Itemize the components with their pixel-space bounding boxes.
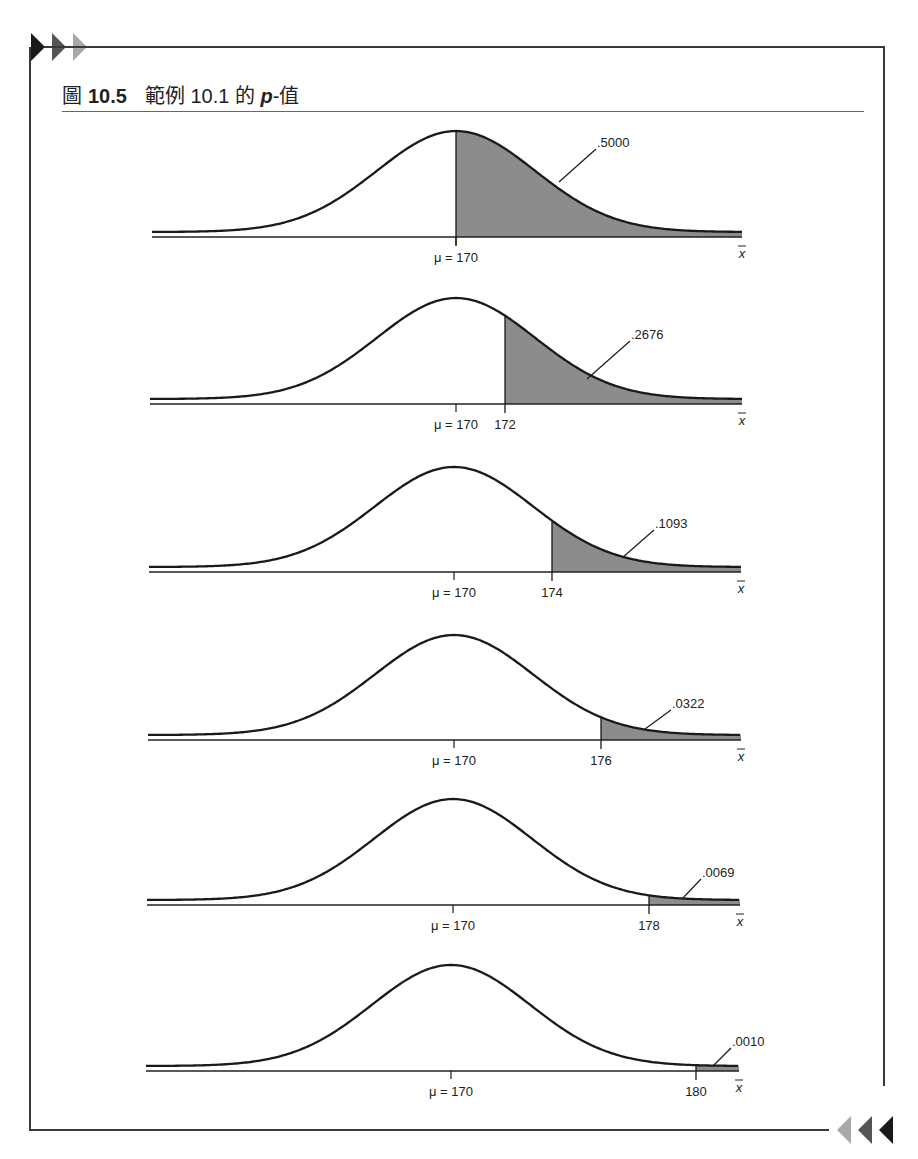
p-value-label: .2676	[631, 327, 664, 342]
mean-label: μ = 170	[429, 1084, 473, 1099]
p-value-label: .0322	[672, 696, 705, 711]
normal-curve	[147, 799, 739, 900]
normal-curve	[148, 635, 740, 735]
mean-label: μ = 170	[432, 585, 476, 600]
x-bar-label: x	[738, 246, 746, 261]
leader-line	[622, 530, 654, 558]
normal-curve	[146, 965, 738, 1066]
leader-line	[587, 341, 630, 379]
arrow-triangles-top-icon	[31, 33, 90, 61]
p-value-chart: μ = 170x.5000μ = 170172x.2676μ = 170174x…	[0, 0, 918, 1159]
cutoff-label: 176	[590, 753, 612, 768]
leader-line	[682, 879, 701, 899]
mean-label: μ = 170	[434, 417, 478, 432]
leader-line	[713, 1048, 731, 1066]
x-bar-label: x	[737, 749, 745, 764]
distribution-panel: μ = 170174x.1093	[149, 467, 745, 600]
normal-curve	[152, 131, 742, 232]
distribution-panel: μ = 170176x.0322	[148, 635, 745, 768]
p-value-label: .0069	[702, 865, 735, 880]
normal-curve	[149, 467, 741, 567]
x-bar-label: x	[738, 413, 746, 428]
cutoff-label: 180	[685, 1084, 707, 1099]
cutoff-label: 178	[638, 918, 660, 933]
mean-label: μ = 170	[432, 753, 476, 768]
shaded-tail-area	[505, 316, 742, 404]
x-bar-label: x	[735, 1080, 743, 1095]
mean-label: μ = 170	[431, 918, 475, 933]
p-value-label: .0010	[732, 1034, 765, 1049]
distribution-panel: μ = 170180x.0010	[146, 965, 765, 1099]
x-bar-label: x	[737, 581, 745, 596]
leader-line	[645, 710, 671, 729]
shaded-tail-area	[552, 521, 741, 572]
leader-line	[559, 149, 596, 182]
cutoff-label: 172	[494, 417, 516, 432]
p-value-label: .1093	[655, 516, 688, 531]
normal-curve	[150, 298, 742, 399]
arrow-triangles-bottom-icon	[837, 1116, 893, 1144]
distribution-panel: μ = 170172x.2676	[150, 298, 746, 432]
x-bar-label: x	[736, 914, 744, 929]
distribution-panel: μ = 170x.5000	[152, 131, 746, 265]
shaded-tail-area	[601, 717, 741, 740]
mean-label: μ = 170	[434, 250, 478, 265]
distribution-panels: μ = 170x.5000μ = 170172x.2676μ = 170174x…	[146, 131, 765, 1099]
p-value-label: .5000	[597, 135, 630, 150]
cutoff-label: 174	[541, 585, 563, 600]
distribution-panel: μ = 170178x.0069	[147, 799, 744, 933]
